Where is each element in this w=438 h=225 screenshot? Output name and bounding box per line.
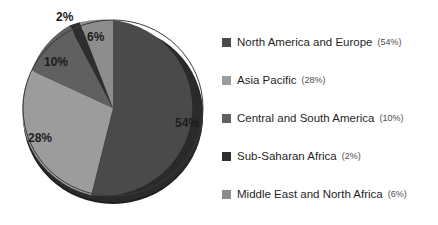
legend-swatch-icon bbox=[222, 76, 231, 85]
legend-item-sub-saharan-africa[interactable]: Sub-Saharan Africa (2%) bbox=[222, 148, 361, 164]
chart-legend: North America and Europe (54%) Asia Paci… bbox=[222, 30, 438, 215]
pie-svg bbox=[0, 0, 218, 225]
slice-value-label-central-and-south-america: 10% bbox=[44, 55, 68, 69]
slice-value-label-north-america-and-europe: 54% bbox=[175, 116, 199, 130]
legend-label: Middle East and North Africa bbox=[237, 188, 383, 201]
slice-value-label-asia-pacific: 28% bbox=[28, 131, 52, 145]
legend-swatch-icon bbox=[222, 152, 231, 161]
legend-label: North America and Europe bbox=[237, 36, 373, 49]
legend-swatch-icon bbox=[222, 114, 231, 123]
legend-item-asia-pacific[interactable]: Asia Pacific (28%) bbox=[222, 72, 325, 88]
legend-percent: (2%) bbox=[342, 150, 361, 163]
legend-swatch-icon bbox=[222, 190, 231, 199]
pie-graphic-area: 54% 28% 10% 2% 6% bbox=[0, 0, 218, 225]
slice-value-label-sub-saharan-africa: 2% bbox=[56, 10, 73, 24]
legend-percent: (54%) bbox=[378, 36, 402, 49]
legend-item-central-and-south-america[interactable]: Central and South America (10%) bbox=[222, 110, 403, 126]
legend-percent: (10%) bbox=[379, 112, 403, 125]
legend-label: Sub-Saharan Africa bbox=[237, 150, 337, 163]
slice-value-label-middle-east-and-north-africa: 6% bbox=[87, 30, 104, 44]
legend-label: Central and South America bbox=[237, 112, 374, 125]
legend-item-north-america-and-europe[interactable]: North America and Europe (54%) bbox=[222, 34, 402, 50]
legend-swatch-icon bbox=[222, 38, 231, 47]
legend-label: Asia Pacific bbox=[237, 74, 296, 87]
legend-percent: (28%) bbox=[301, 74, 325, 87]
legend-percent: (6%) bbox=[388, 188, 407, 201]
pie-chart: 54% 28% 10% 2% 6% North America and Euro… bbox=[0, 0, 438, 225]
legend-item-middle-east-and-north-africa[interactable]: Middle East and North Africa (6%) bbox=[222, 186, 407, 202]
